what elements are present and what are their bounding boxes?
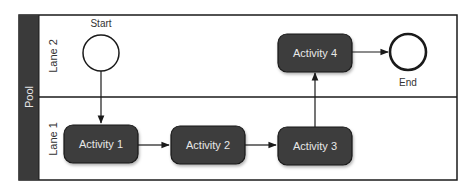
activity-3[interactable]: Activity 3 [278,127,352,165]
activity-2-label: Activity 2 [186,139,230,151]
lane-2-label: Lane 2 [47,39,59,73]
end-label: End [399,77,417,88]
lane-1-label: Lane 1 [47,122,59,156]
start-event[interactable] [83,35,119,71]
pool-label: Pool [23,86,35,108]
activity-4[interactable]: Activity 4 [278,34,352,72]
activity-4-label: Activity 4 [293,47,337,59]
end-event[interactable] [390,34,426,70]
start-label: Start [90,18,111,29]
bpmn-diagram: Pool Lane 2 Lane 1 Start Activity 1 Acti… [0,0,475,191]
activity-1[interactable]: Activity 1 [64,125,138,163]
activity-1-label: Activity 1 [79,138,123,150]
activity-3-label: Activity 3 [293,140,337,152]
activity-2[interactable]: Activity 2 [171,126,245,164]
